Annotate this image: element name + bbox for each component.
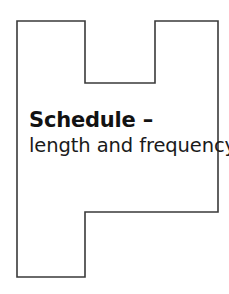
- page-title: Schedule – length and frequency: [29, 108, 211, 158]
- title-line-primary: Schedule –: [29, 108, 211, 133]
- title-line-secondary: length and frequency: [29, 134, 211, 158]
- page-canvas: Schedule – length and frequency: [0, 0, 229, 294]
